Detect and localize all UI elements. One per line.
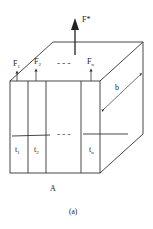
force-label-2: F2 bbox=[34, 57, 41, 67]
width-dimension bbox=[103, 74, 141, 110]
width-label: b bbox=[115, 83, 119, 92]
force-arrows bbox=[17, 70, 91, 81]
layer-label-1: t1 bbox=[15, 145, 20, 155]
layered-block-diagram: - - - - - - F* F1 F2 Fn b t1 t2 tn A (a) bbox=[0, 0, 153, 229]
force-label-n: Fn bbox=[87, 57, 94, 67]
front-face-label: A bbox=[50, 184, 56, 193]
force-label-1: F1 bbox=[13, 59, 20, 69]
section-dashes: - - - bbox=[57, 129, 71, 139]
box-outline bbox=[10, 42, 143, 173]
arrow-up-icon bbox=[71, 18, 79, 30]
front-face bbox=[10, 81, 100, 173]
layer-label-2: t2 bbox=[34, 145, 39, 155]
layer-label-n: tn bbox=[89, 145, 94, 155]
total-force-arrow bbox=[71, 18, 79, 55]
total-force-label: F* bbox=[82, 15, 90, 24]
force-dashes: - - - bbox=[57, 58, 71, 68]
figure-caption: (a) bbox=[69, 207, 78, 216]
section-line-left bbox=[12, 135, 50, 136]
top-face bbox=[10, 42, 143, 81]
